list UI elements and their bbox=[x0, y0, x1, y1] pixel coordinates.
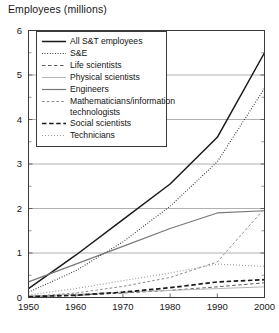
legend-line-swatch bbox=[41, 130, 67, 141]
y-tick-label: 3 bbox=[4, 158, 22, 169]
legend-label: Engineers bbox=[67, 84, 109, 95]
series-line bbox=[29, 211, 265, 282]
legend-line-swatch bbox=[41, 72, 67, 83]
legend-item: Technicians bbox=[41, 130, 163, 141]
legend-label: S&E bbox=[67, 48, 87, 59]
legend-line-swatch bbox=[41, 36, 67, 47]
x-tick-label: 1980 bbox=[153, 301, 187, 312]
series-line bbox=[29, 287, 265, 296]
legend-label: Physical scientists bbox=[67, 72, 140, 83]
x-tick-label: 1970 bbox=[106, 301, 140, 312]
legend-label: Social scientists bbox=[67, 118, 131, 129]
legend-item: Life scientists bbox=[41, 60, 163, 71]
chart-container: Employees (millions) 0123456 19501960197… bbox=[0, 0, 278, 333]
y-tick-label: 2 bbox=[4, 203, 22, 214]
x-tick-label: 1960 bbox=[59, 301, 93, 312]
legend-item: Engineers bbox=[41, 84, 163, 95]
legend-line-swatch bbox=[41, 84, 67, 95]
x-tick-label: 1990 bbox=[200, 301, 234, 312]
legend-line-swatch bbox=[41, 118, 67, 129]
legend-label: Technicians bbox=[67, 130, 115, 141]
legend-label: All S&T employees bbox=[67, 36, 142, 47]
legend-line-swatch bbox=[41, 96, 67, 107]
series-line bbox=[29, 209, 265, 297]
x-tick-label: 2000 bbox=[248, 301, 279, 312]
y-tick-label: 1 bbox=[4, 247, 22, 258]
legend-item: Mathematicians/information technologists bbox=[41, 96, 163, 117]
y-tick-label: 4 bbox=[4, 114, 22, 125]
legend-label: Mathematicians/information technologists bbox=[67, 96, 175, 117]
legend-item: S&E bbox=[41, 48, 163, 59]
chart-legend: All S&T employeesS&ELife scientistsPhysi… bbox=[36, 31, 167, 147]
legend-line-swatch bbox=[41, 48, 67, 59]
y-tick-label: 6 bbox=[4, 25, 22, 36]
legend-item: Social scientists bbox=[41, 118, 163, 129]
legend-item: All S&T employees bbox=[41, 36, 163, 47]
x-tick-label: 1950 bbox=[12, 301, 46, 312]
legend-line-swatch bbox=[41, 60, 67, 71]
legend-label: Life scientists bbox=[67, 60, 122, 71]
legend-item: Physical scientists bbox=[41, 72, 163, 83]
y-tick-label: 5 bbox=[4, 69, 22, 80]
